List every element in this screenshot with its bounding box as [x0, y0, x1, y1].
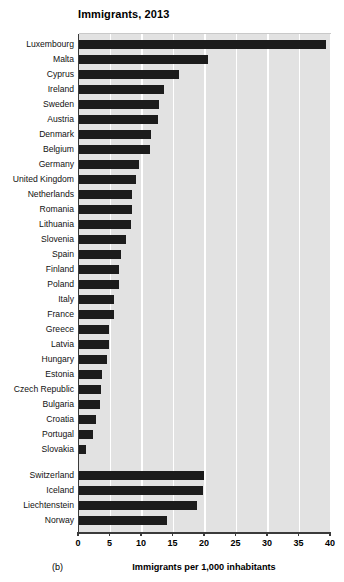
bar-czech-republic	[79, 385, 101, 394]
y-label-greece: Greece	[0, 325, 74, 334]
y-label-italy: Italy	[0, 295, 74, 304]
bar-latvia	[79, 340, 109, 349]
bar-row	[79, 37, 331, 52]
y-label-austria: Austria	[0, 115, 74, 124]
y-label-czech-republic: Czech Republic	[0, 385, 74, 394]
bar-row	[79, 468, 331, 483]
chart-title: Immigrants, 2013	[78, 8, 169, 20]
bar-row	[79, 157, 331, 172]
bar-row	[79, 262, 331, 277]
bar-austria	[79, 115, 158, 124]
x-tick-label-15: 15	[167, 538, 177, 548]
bar-romania	[79, 205, 132, 214]
bar-belgium	[79, 145, 150, 154]
bar-estonia	[79, 370, 102, 379]
y-label-lithuania: Lithuania	[0, 220, 74, 229]
bar-poland	[79, 280, 119, 289]
x-tick-label-0: 0	[75, 538, 80, 548]
bar-malta	[79, 55, 208, 64]
bar-row	[79, 232, 331, 247]
bar-row	[79, 483, 331, 498]
bar-iceland	[79, 486, 203, 495]
bar-row	[79, 337, 331, 352]
y-label-cyprus: Cyprus	[0, 70, 74, 79]
bar-row	[79, 427, 331, 442]
bar-switzerland	[79, 471, 204, 480]
y-label-estonia: Estonia	[0, 370, 74, 379]
bar-row	[79, 202, 331, 217]
bar-row	[79, 498, 331, 513]
x-tick-label-35: 35	[293, 538, 303, 548]
y-label-liechtenstein: Liechtenstein	[0, 501, 74, 510]
x-tick-label-20: 20	[199, 538, 209, 548]
bar-ireland	[79, 85, 164, 94]
y-axis-category-labels: LuxembourgMaltaCyprusIrelandSwedenAustri…	[0, 34, 74, 532]
bar-denmark	[79, 130, 151, 139]
bar-croatia	[79, 415, 96, 424]
bar-spain	[79, 250, 121, 259]
bar-greece	[79, 325, 109, 334]
bar-row	[79, 292, 331, 307]
bar-row	[79, 187, 331, 202]
x-tick-label-25: 25	[230, 538, 240, 548]
x-tick-20	[203, 532, 205, 536]
bar-lithuania	[79, 220, 131, 229]
bar-sweden	[79, 100, 159, 109]
bar-row	[79, 217, 331, 232]
x-tick-label-5: 5	[107, 538, 112, 548]
y-label-netherlands: Netherlands	[0, 190, 74, 199]
y-label-france: France	[0, 310, 74, 319]
bar-slovenia	[79, 235, 126, 244]
x-tick-15	[172, 532, 174, 536]
plot-area	[78, 34, 331, 532]
x-tick-label-40: 40	[325, 538, 335, 548]
bar-portugal	[79, 430, 93, 439]
bar-cyprus	[79, 70, 179, 79]
x-tick-35	[298, 532, 300, 536]
bar-row	[79, 412, 331, 427]
bar-row	[79, 307, 331, 322]
y-label-slovenia: Slovenia	[0, 235, 74, 244]
x-tick-10	[140, 532, 142, 536]
y-label-croatia: Croatia	[0, 415, 74, 424]
bar-italy	[79, 295, 114, 304]
y-label-luxembourg: Luxembourg	[0, 40, 74, 49]
x-tick-40	[329, 532, 331, 536]
bar-row	[79, 52, 331, 67]
immigrants-bar-chart-figure: Immigrants, 2013 LuxembourgMaltaCyprusIr…	[0, 0, 344, 582]
bar-row	[79, 397, 331, 412]
y-label-united-kingdom: United Kingdom	[0, 175, 74, 184]
y-label-ireland: Ireland	[0, 85, 74, 94]
bar-row	[79, 442, 331, 457]
bar-row	[79, 247, 331, 262]
bar-slovakia	[79, 445, 86, 454]
bar-luxembourg	[79, 40, 326, 49]
bar-row	[79, 127, 331, 142]
bar-row	[79, 322, 331, 337]
bar-row	[79, 513, 331, 528]
y-label-sweden: Sweden	[0, 100, 74, 109]
bar-row	[79, 172, 331, 187]
bar-row	[79, 112, 331, 127]
y-label-belgium: Belgium	[0, 145, 74, 154]
y-label-denmark: Denmark	[0, 130, 74, 139]
y-label-iceland: Iceland	[0, 486, 74, 495]
bar-row	[79, 82, 331, 97]
bar-norway	[79, 516, 167, 525]
y-label-bulgaria: Bulgaria	[0, 400, 74, 409]
panel-label: (b)	[52, 562, 63, 572]
x-axis-title: Immigrants per 1,000 inhabitants	[78, 562, 330, 572]
bar-liechtenstein	[79, 501, 197, 510]
bar-row	[79, 352, 331, 367]
y-label-slovakia: Slovakia	[0, 445, 74, 454]
y-label-germany: Germany	[0, 160, 74, 169]
x-tick-label-10: 10	[136, 538, 146, 548]
y-label-finland: Finland	[0, 265, 74, 274]
bar-bulgaria	[79, 400, 100, 409]
bar-row	[79, 67, 331, 82]
y-label-poland: Poland	[0, 280, 74, 289]
bar-row	[79, 382, 331, 397]
bar-france	[79, 310, 114, 319]
y-label-portugal: Portugal	[0, 430, 74, 439]
x-tick-5	[109, 532, 111, 536]
